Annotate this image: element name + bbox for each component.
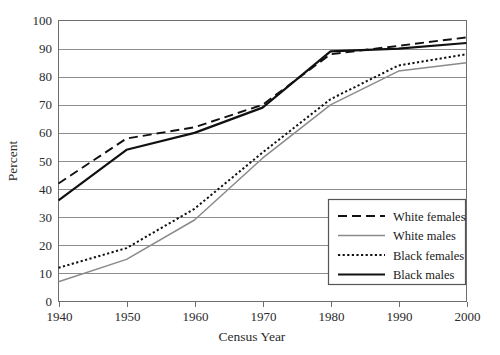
legend-label-black-females: Black females xyxy=(393,249,464,263)
y-tick-label: 30 xyxy=(39,210,52,225)
y-tick-label: 70 xyxy=(39,97,52,112)
legend: White femalesWhite malesBlack femalesBla… xyxy=(329,200,466,285)
y-tick-label: 80 xyxy=(39,69,52,84)
y-tick-label: 40 xyxy=(39,182,52,197)
line-chart: 0102030405060708090100 19401950196019701… xyxy=(0,0,500,355)
x-axis-tick-labels-group: 1940195019601970198019902000 xyxy=(47,309,481,324)
x-tick-label: 1990 xyxy=(387,309,413,324)
y-tick-label: 100 xyxy=(33,13,53,28)
x-tick-label: 1980 xyxy=(319,309,345,324)
x-tick-label: 1950 xyxy=(115,309,141,324)
chart-container: 0102030405060708090100 19401950196019701… xyxy=(0,0,500,355)
series-line-black-males xyxy=(59,43,467,200)
y-axis-title: Percent xyxy=(5,141,20,182)
x-tick-label: 1960 xyxy=(183,309,209,324)
x-tick-label: 1940 xyxy=(47,309,73,324)
x-axis-ticks-group xyxy=(60,302,468,307)
y-tick-label: 60 xyxy=(39,125,52,140)
y-tick-label: 10 xyxy=(39,266,52,281)
x-tick-label: 1970 xyxy=(251,309,277,324)
y-tick-label: 90 xyxy=(39,41,52,56)
x-axis-title: Census Year xyxy=(219,329,286,344)
legend-label-black-males: Black males xyxy=(393,268,455,282)
y-tick-label: 50 xyxy=(39,154,52,169)
x-tick-label: 2000 xyxy=(455,309,481,324)
y-axis-tick-labels-group: 0102030405060708090100 xyxy=(33,13,53,309)
y-tick-label: 20 xyxy=(39,238,52,253)
legend-label-white-females: White females xyxy=(393,210,466,224)
legend-label-white-males: White males xyxy=(393,229,456,243)
y-tick-label: 0 xyxy=(46,294,53,309)
